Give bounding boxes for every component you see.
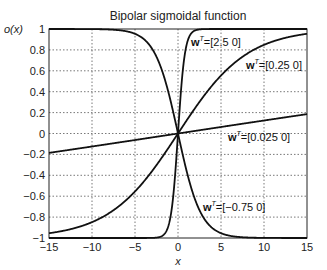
curve-label: wT=[0.25 0] <box>245 58 302 71</box>
y-tick-label: 0 <box>39 128 45 140</box>
x-axis-label: x <box>174 255 181 267</box>
x-tick-label: 15 <box>301 241 313 253</box>
x-tick-label: −10 <box>83 241 102 253</box>
x-tick-label: −15 <box>40 241 59 253</box>
y-tick-label: 1 <box>39 23 45 35</box>
x-tick-label: 10 <box>258 241 270 253</box>
x-axis-ticks: −15−10−5051015 <box>40 241 313 253</box>
sigmoid-chart: Bipolar sigmoidal function 10.80.60.40.2… <box>0 0 327 270</box>
y-tick-label: −0.4 <box>23 169 45 181</box>
x-tick-label: −5 <box>129 241 142 253</box>
y-tick-label: −0.2 <box>23 148 45 160</box>
y-tick-label: 0.6 <box>30 65 45 77</box>
y-tick-label: −0.8 <box>23 211 45 223</box>
y-tick-label: −0.6 <box>23 190 45 202</box>
x-tick-label: 0 <box>175 241 181 253</box>
x-tick-label: 5 <box>218 241 224 253</box>
curve-label: wT=[−0.75 0] <box>202 200 265 213</box>
y-axis-ticks: 10.80.60.40.20−0.2−0.4−0.6−0.8−1 <box>23 23 45 244</box>
y-axis-label: o(x) <box>4 23 23 35</box>
y-tick-label: 0.4 <box>30 86 45 98</box>
y-tick-label: 0.8 <box>30 44 45 56</box>
curve-label: wT=[0.025 0] <box>227 130 290 143</box>
curve-label: wT=[2.5 0] <box>190 35 241 48</box>
y-tick-label: 0.2 <box>30 107 45 119</box>
chart-title: Bipolar sigmoidal function <box>110 9 247 23</box>
